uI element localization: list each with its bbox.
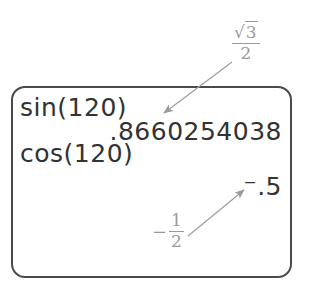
- fraction-denominator: 2: [171, 233, 182, 251]
- fraction-numerator: 1: [169, 212, 184, 230]
- expression-cos: cos(120): [20, 141, 133, 166]
- result-sin: .8660254038: [109, 119, 282, 144]
- minus-sign: −: [152, 221, 167, 242]
- sqrt-icon: √: [234, 22, 245, 42]
- annotation-negative-one-half: − 1 2: [152, 212, 184, 251]
- result-cos: ⁻.5: [243, 174, 282, 199]
- fraction-denominator: 2: [240, 45, 251, 63]
- sqrt-radicand: 3: [245, 21, 258, 42]
- annotation-sqrt3-over-2: √3 2: [232, 24, 260, 63]
